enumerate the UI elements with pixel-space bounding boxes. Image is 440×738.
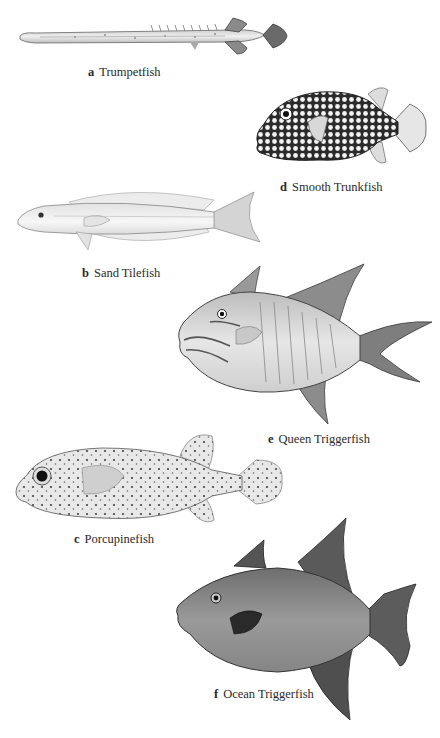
- trumpetfish-illustration: [15, 14, 290, 60]
- caption-name: Porcupinefish: [85, 532, 154, 546]
- caption-letter: c: [74, 532, 80, 546]
- caption-sand-tilefish: bSand Tilefish: [82, 266, 160, 281]
- caption-trumpetfish: aTrumpetfish: [88, 65, 161, 80]
- queen-triggerfish-illustration: [170, 262, 432, 428]
- caption-name: Ocean Triggerfish: [223, 687, 314, 701]
- caption-smooth-trunkfish: dSmooth Trunkfish: [280, 180, 383, 195]
- caption-letter: f: [214, 687, 218, 701]
- caption-name: Trumpetfish: [99, 65, 160, 79]
- caption-letter: a: [88, 65, 94, 79]
- sand-tilefish-illustration: [14, 184, 266, 256]
- caption-porcupinefish: cPorcupinefish: [74, 532, 154, 547]
- caption-letter: d: [280, 180, 287, 194]
- caption-name: Sand Tilefish: [94, 266, 160, 280]
- caption-name: Smooth Trunkfish: [292, 180, 383, 194]
- caption-name: Queen Triggerfish: [279, 432, 370, 446]
- caption-ocean-triggerfish: fOcean Triggerfish: [214, 687, 314, 702]
- porcupinefish-illustration: [12, 430, 286, 528]
- smooth-trunkfish-illustration: [250, 82, 430, 174]
- caption-letter: b: [82, 266, 89, 280]
